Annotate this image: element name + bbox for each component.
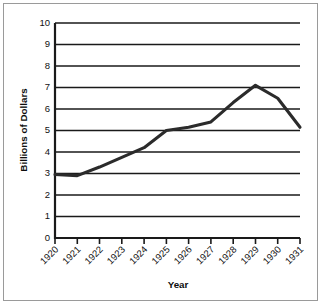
- yaxis-title: Billions of Dollars: [18, 88, 29, 172]
- xtick-label-1931: 1931: [283, 244, 306, 267]
- screenshot-root: 10 9 8 7 6 5 4 3 2 1 0 1920 1921 1922 19…: [0, 0, 321, 304]
- ytick-label-8: 8: [45, 60, 50, 71]
- ytick-label-1: 1: [45, 210, 50, 221]
- xtick-label-1922: 1922: [82, 244, 105, 267]
- ytick-label-0: 0: [45, 232, 50, 243]
- xtick-label-1924: 1924: [127, 244, 150, 267]
- ytick-label-3: 3: [45, 167, 50, 178]
- ytick-label-5: 5: [45, 124, 50, 135]
- xtick-label-1921: 1921: [60, 244, 83, 267]
- line-chart: 10 9 8 7 6 5 4 3 2 1 0 1920 1921 1922 19…: [0, 0, 321, 304]
- ytick-label-2: 2: [45, 189, 50, 200]
- xtick-label-1929: 1929: [238, 244, 261, 267]
- xaxis-title: Year: [168, 279, 189, 290]
- xtick-label-1923: 1923: [104, 244, 127, 267]
- ytick-label-10: 10: [39, 17, 50, 28]
- ytick-label-6: 6: [45, 103, 50, 114]
- gridlines: [55, 23, 300, 217]
- ytick-label-7: 7: [45, 81, 50, 92]
- xtick-label-1925: 1925: [149, 244, 172, 267]
- xtick-label-1930: 1930: [260, 244, 283, 267]
- xtick-label-1920: 1920: [38, 244, 61, 267]
- xtick-label-1927: 1927: [194, 244, 217, 267]
- ytick-label-4: 4: [45, 146, 50, 157]
- xtick-label-1928: 1928: [216, 244, 239, 267]
- chart-canvas: 10 9 8 7 6 5 4 3 2 1 0 1920 1921 1922 19…: [0, 0, 321, 304]
- yaxis-tick-labels: 10 9 8 7 6 5 4 3 2 1 0: [39, 17, 50, 243]
- xaxis-tick-labels: 1920 1921 1922 1923 1924 1925 1926 1927 …: [38, 244, 306, 267]
- ytick-label-9: 9: [45, 38, 50, 49]
- xtick-label-1926: 1926: [171, 244, 194, 267]
